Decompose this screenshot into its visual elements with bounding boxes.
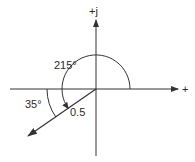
angle-label-215: 215° <box>54 60 77 71</box>
magnitude-label: 0.5 <box>70 107 85 118</box>
angle-arc-35 <box>47 89 56 117</box>
angle-label-35: 35° <box>25 99 42 110</box>
imag-axis-label: +j <box>89 6 98 17</box>
phasor-diagram: +j + 215° 35° 0.5 <box>0 0 195 162</box>
phasor-vector <box>28 89 96 136</box>
diagram-svg <box>0 0 195 162</box>
real-axis-label: + <box>182 84 188 95</box>
